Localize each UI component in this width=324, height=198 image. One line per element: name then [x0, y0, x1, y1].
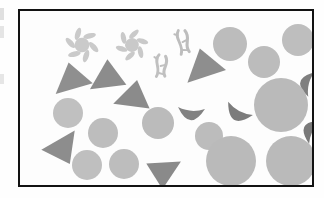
scan-artifact	[0, 74, 4, 84]
scan-artifact	[0, 8, 4, 20]
crescent-shape	[222, 102, 253, 127]
triangle-shape	[90, 58, 128, 91]
crescent-shape	[177, 107, 205, 121]
triangle-shape	[53, 60, 94, 94]
squiggle-shape	[174, 29, 190, 54]
circle-shape	[88, 118, 118, 148]
circle-shape	[53, 98, 83, 128]
circle-shape	[72, 150, 102, 180]
pinwheel-shape	[61, 25, 103, 65]
triangle-shape	[143, 157, 181, 187]
circle-shape	[206, 136, 256, 186]
circle-shape	[213, 27, 247, 61]
circle-shape	[254, 78, 308, 132]
scan-artifact	[0, 26, 4, 38]
circle-shape	[109, 149, 139, 179]
circle-shape	[282, 24, 314, 56]
pinwheel-shape	[110, 24, 154, 66]
circle-shape	[248, 46, 280, 78]
shape-canvas	[20, 11, 312, 185]
squiggle-shape	[152, 54, 167, 77]
figure-page	[0, 0, 324, 198]
circle-shape	[142, 107, 174, 139]
figure-frame	[18, 9, 314, 187]
circle-shape	[266, 136, 314, 186]
